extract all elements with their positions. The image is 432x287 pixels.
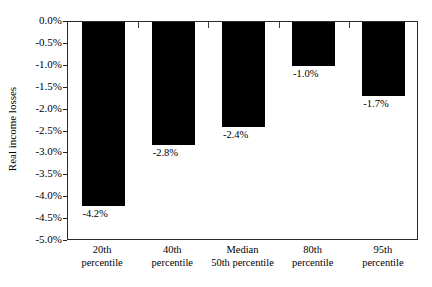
plot-inner: -4.2%-2.8%-2.4%-1.0%-1.7% (68, 22, 417, 239)
bar-value-label: -1.0% (293, 68, 318, 79)
bar-value-label: -2.4% (223, 129, 248, 140)
plot-area: -4.2%-2.8%-2.4%-1.0%-1.7% (67, 21, 418, 240)
x-axis-category-label-line: percentile (67, 256, 137, 269)
x-axis-category-label-line: 40th (137, 243, 207, 256)
x-axis-tick-mark (138, 22, 139, 28)
x-axis-category-label-line: 95th (348, 243, 418, 256)
y-axis-tick-label: -4.0% (0, 190, 62, 201)
x-axis-category-labels: 20thpercentile40thpercentileMedian50th p… (67, 243, 418, 287)
bar (82, 22, 125, 206)
x-axis-category-label-line: 50th percentile (207, 256, 277, 269)
chart-figure: Real income losses 0.0%-0.5%-1.0%-1.5%-2… (0, 0, 432, 287)
y-axis-tick-mark (63, 240, 67, 241)
x-axis-tick-mark (279, 22, 280, 28)
clipped-caption-remnant (8, 0, 424, 2)
x-axis-category-label: 95thpercentile (348, 243, 418, 269)
x-axis-category-label-line: Median (207, 243, 277, 256)
y-axis-tick-label: -0.5% (0, 37, 62, 48)
y-axis-tick-label: 0.0% (0, 15, 62, 26)
x-axis-category-label: Median50th percentile (207, 243, 277, 269)
x-axis-category-label-line: percentile (348, 256, 418, 269)
x-axis-category-label-line: 80th (278, 243, 348, 256)
bar (292, 22, 335, 66)
x-axis-category-label-line: percentile (137, 256, 207, 269)
bar (152, 22, 195, 145)
x-axis-tick-mark (349, 22, 350, 28)
y-axis-tick-label: -3.0% (0, 146, 62, 157)
x-axis-category-label: 20thpercentile (67, 243, 137, 269)
x-axis-category-label-line: percentile (278, 256, 348, 269)
y-axis-tick-labels: 0.0%-0.5%-1.0%-1.5%-2.0%-2.5%-3.0%-3.5%-… (0, 0, 62, 287)
y-axis-tick-label: -3.5% (0, 168, 62, 179)
y-axis-tick-label: -1.0% (0, 59, 62, 70)
bar-value-label: -4.2% (83, 208, 108, 219)
y-axis-tick-label: -2.5% (0, 125, 62, 136)
y-axis-tick-label: -1.5% (0, 81, 62, 92)
x-axis-category-label: 80thpercentile (278, 243, 348, 269)
bar-value-label: -1.7% (363, 98, 388, 109)
x-axis-category-label: 40thpercentile (137, 243, 207, 269)
bar (362, 22, 405, 96)
bar (222, 22, 265, 127)
y-axis-tick-label: -4.5% (0, 212, 62, 223)
x-axis-category-label-line: 20th (67, 243, 137, 256)
bar-value-label: -2.8% (153, 147, 178, 158)
y-axis-tick-label: -5.0% (0, 234, 62, 245)
y-axis-tick-label: -2.0% (0, 103, 62, 114)
x-axis-tick-mark (208, 22, 209, 28)
